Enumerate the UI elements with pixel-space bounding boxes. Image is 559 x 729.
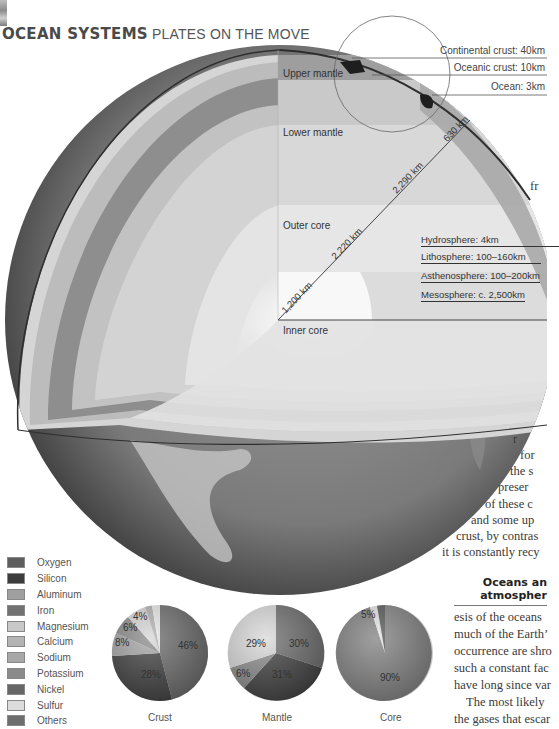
crust-pct-6: 6% bbox=[123, 622, 137, 633]
core-pct-90: 90% bbox=[380, 672, 400, 683]
pie-crust bbox=[112, 605, 208, 701]
pie-mantle bbox=[228, 605, 325, 701]
mantle-pct-31: 31% bbox=[272, 669, 292, 680]
mantle-pct-29: 29% bbox=[246, 638, 266, 649]
pie-title-crust: Crust bbox=[148, 712, 172, 723]
pie-title-mantle: Mantle bbox=[262, 712, 292, 723]
crust-pct-8: 8% bbox=[115, 637, 129, 648]
pie-title-core: Core bbox=[380, 712, 402, 723]
crust-pct-46: 46% bbox=[178, 640, 198, 651]
crust-pct-28: 28% bbox=[141, 669, 161, 680]
mantle-pct-30: 30% bbox=[289, 638, 309, 649]
pie-core bbox=[336, 605, 433, 701]
core-pct-5: 5% bbox=[361, 609, 375, 620]
mantle-pct-6: 6% bbox=[236, 668, 250, 679]
crust-pct-4: 4% bbox=[133, 611, 147, 622]
